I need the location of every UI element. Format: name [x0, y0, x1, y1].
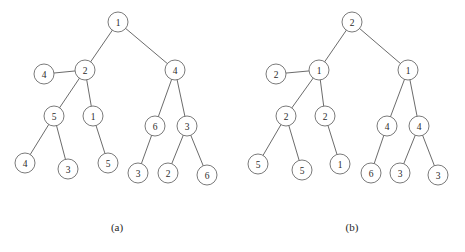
tree-edge — [325, 30, 347, 62]
tree-node: 3 — [58, 159, 78, 179]
tree-node: 1 — [309, 60, 329, 80]
tree-node-label: 6 — [369, 169, 374, 179]
tree-edge — [286, 71, 309, 73]
tree-node: 2 — [315, 106, 335, 126]
tree-node-label: 4 — [385, 122, 390, 132]
tree-node-label: 3 — [398, 169, 403, 179]
tree-a-edges — [30, 28, 203, 165]
figure-caption-a: (a) — [111, 221, 124, 234]
tree-node: 2 — [276, 106, 296, 126]
tree-edge — [96, 126, 105, 154]
tree-edge — [404, 135, 416, 163]
tree-node-label: 1 — [116, 18, 121, 28]
tree-node: 4 — [165, 60, 185, 80]
tree-a-nodes: 12445163435326 — [15, 12, 217, 185]
tree-node-label: 3 — [436, 171, 441, 181]
tree-node-label: 3 — [136, 169, 141, 179]
figure-caption-b: (b) — [346, 221, 359, 234]
tree-node: 4 — [409, 116, 429, 136]
tree-node-label: 2 — [83, 66, 88, 76]
tree-node-label: 2 — [274, 70, 279, 80]
tree-node: 5 — [248, 154, 268, 174]
tree-b-nodes: 21122244551633 — [248, 12, 448, 185]
tree-node-label: 2 — [284, 112, 289, 122]
tree-node-label: 1 — [91, 112, 96, 122]
tree-edge — [91, 30, 113, 62]
tree-edge — [141, 135, 151, 163]
tree-edge — [126, 28, 168, 63]
tree-node-label: 2 — [350, 18, 355, 28]
tree-node: 6 — [145, 116, 165, 136]
tree-node: 1 — [108, 12, 128, 32]
tree-node: 2 — [158, 163, 178, 183]
tree-node-label: 4 — [417, 122, 422, 132]
binary-tree-figure: 1244516343532621122244551633 (a)(b) — [0, 0, 465, 252]
tree-node-label: 6 — [205, 171, 210, 181]
tree-node-label: 5 — [52, 112, 57, 122]
tree-node: 6 — [361, 163, 381, 183]
tree-edge — [391, 79, 405, 116]
tree-edge — [30, 125, 49, 155]
tree-node-label: 5 — [106, 159, 111, 169]
tree-b-edges — [263, 29, 434, 166]
tree-edge — [289, 126, 299, 161]
tree-edge — [374, 135, 384, 163]
tree-edge — [320, 80, 323, 106]
tree-nodes-layer: 1244516343532621122244551633 — [15, 12, 448, 185]
tree-node: 2 — [342, 12, 362, 32]
tree-node: 2 — [75, 60, 95, 80]
tree-node: 6 — [197, 165, 217, 185]
tree-node-label: 4 — [42, 70, 47, 80]
tree-edge — [57, 126, 66, 160]
tree-node: 5 — [98, 153, 118, 173]
tree-edge — [410, 80, 417, 116]
tree-node: 3 — [390, 163, 410, 183]
figure-captions-layer: (a)(b) — [111, 221, 359, 234]
tree-node-label: 4 — [23, 159, 28, 169]
tree-edge — [328, 126, 337, 155]
tree-node-label: 3 — [66, 165, 71, 175]
tree-edge — [158, 79, 171, 116]
tree-node-label: 1 — [406, 66, 411, 76]
tree-node: 2 — [266, 64, 286, 84]
tree-edges-layer — [30, 28, 434, 165]
tree-edge — [87, 80, 92, 106]
tree-edge — [191, 135, 203, 165]
tree-node-label: 2 — [323, 112, 328, 122]
tree-edge — [360, 29, 401, 64]
tree-node: 4 — [34, 64, 54, 84]
tree-node: 5 — [44, 106, 64, 126]
tree-node-label: 1 — [317, 66, 322, 76]
tree-edge — [292, 78, 313, 108]
tree-node: 4 — [15, 153, 35, 173]
tree-edge — [177, 80, 185, 116]
tree-node-label: 5 — [256, 160, 261, 170]
tree-node: 5 — [292, 160, 312, 180]
tree-node: 3 — [177, 116, 197, 136]
tree-node-label: 4 — [173, 66, 178, 76]
tree-node-label: 3 — [185, 122, 190, 132]
tree-edge — [54, 71, 75, 73]
tree-edge — [423, 135, 435, 165]
tree-edge — [60, 78, 80, 107]
tree-node-label: 1 — [338, 160, 343, 170]
tree-edge — [263, 125, 281, 156]
tree-node-label: 2 — [166, 169, 171, 179]
tree-node-label: 5 — [300, 166, 305, 176]
figure-canvas: 1244516343532621122244551633 (a)(b) — [0, 0, 465, 252]
tree-node: 1 — [398, 60, 418, 80]
tree-edge — [172, 135, 184, 163]
tree-node: 3 — [428, 165, 448, 185]
tree-node-label: 6 — [153, 122, 158, 132]
tree-node: 3 — [128, 163, 148, 183]
tree-node: 1 — [330, 154, 350, 174]
tree-node: 4 — [377, 116, 397, 136]
tree-node: 1 — [83, 106, 103, 126]
